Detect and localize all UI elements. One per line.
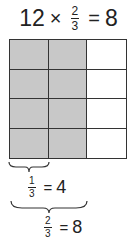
one-third-denominator: 3 (29, 188, 35, 199)
eq-whole: 12 (19, 5, 45, 32)
grid-cell-shaded (49, 129, 88, 159)
grid-cell-shaded (49, 40, 88, 70)
grid-cell-shaded (10, 40, 49, 70)
eq-equals: = (88, 7, 100, 30)
eq-numerator: 2 (71, 5, 80, 19)
one-third-equals: = (44, 179, 53, 196)
grid-cell (87, 99, 126, 129)
eq-denominator: 3 (72, 19, 79, 32)
grid-cell-shaded (10, 70, 49, 100)
one-third-numerator: 1 (28, 176, 36, 188)
label-two-thirds: 2 3 = 8 (40, 216, 82, 239)
two-thirds-value: 8 (72, 217, 82, 238)
fraction-grid (9, 39, 127, 159)
label-one-third: 1 3 = 4 (24, 176, 66, 199)
two-thirds-equals: = (60, 219, 69, 236)
grid-cell-shaded (49, 70, 88, 100)
grid-cell-shaded (10, 99, 49, 129)
grid-cell-shaded (10, 129, 49, 159)
two-thirds-fraction: 2 3 (44, 216, 52, 239)
two-thirds-numerator: 2 (44, 216, 52, 228)
title-equation: 12 × 2 3 = 8 (0, 2, 137, 34)
grid-cell-shaded (49, 99, 88, 129)
eq-result: 8 (105, 5, 118, 32)
grid-cell (87, 129, 126, 159)
brace-two-thirds-icon (10, 200, 90, 214)
eq-times: × (50, 7, 62, 30)
grid-cell (87, 40, 126, 70)
grid-cell (87, 70, 126, 100)
eq-fraction: 2 3 (71, 5, 80, 32)
one-third-fraction: 1 3 (28, 176, 36, 199)
two-thirds-denominator: 3 (45, 228, 51, 239)
one-third-value: 4 (56, 177, 66, 198)
brace-one-third-icon (8, 161, 50, 173)
